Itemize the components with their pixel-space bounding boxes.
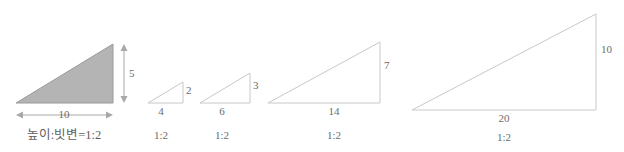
triangle-5-base-label: 20 [499, 113, 510, 124]
triangle-5-ratio-label: 1:2 [497, 132, 511, 143]
triangle-4-base-label: 14 [329, 106, 340, 117]
triangle-3-height-label: 3 [253, 80, 259, 91]
triangle-2-shape [148, 82, 183, 103]
triangle-1-shape [16, 44, 113, 103]
triangle-4-shape [268, 42, 380, 103]
triangle-1-height-arrow [121, 44, 128, 103]
triangle-2-ratio-label: 1:2 [154, 130, 168, 141]
triangle-5-height-label: 10 [601, 44, 612, 55]
triangle-4-ratio-label: 1:2 [327, 130, 341, 141]
triangle-2-base-label: 4 [158, 106, 164, 117]
triangle-3-shape [200, 73, 250, 103]
triangle-1-ratio-label: 높이:빗변=1:2 [27, 129, 102, 142]
triangle-4-height-label: 7 [384, 60, 390, 71]
triangle-1-base-label: 10 [59, 109, 70, 120]
triangle-3-ratio-label: 1:2 [215, 130, 229, 141]
triangle-3-base-label: 6 [219, 106, 225, 117]
triangle-1-height-label: 5 [129, 68, 135, 79]
triangle-5-shape [412, 14, 596, 110]
triangle-2-height-label: 2 [186, 85, 192, 96]
